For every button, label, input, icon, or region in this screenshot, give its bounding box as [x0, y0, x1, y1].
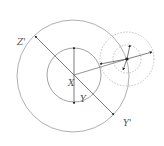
diagram-svg: Z' X Y Y' [0, 0, 164, 146]
diagram-canvas: Z' X Y Y' [0, 0, 164, 146]
satellite-small-arrow-down [123, 59, 127, 70]
label-y: Y [80, 94, 87, 104]
satellite-center-dot [125, 57, 128, 60]
satellite-small-arrow-up [127, 45, 130, 59]
label-z-prime: Z' [16, 37, 26, 47]
outer-diameter-arrow-a [35, 36, 74, 75]
label-y-prime: Y' [123, 118, 131, 128]
label-x: X [67, 78, 75, 88]
outer-circle [17, 20, 129, 132]
